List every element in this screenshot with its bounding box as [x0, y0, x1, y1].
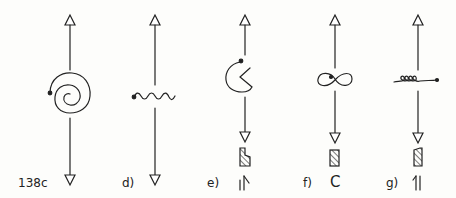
panel-g-coil: [394, 15, 439, 190]
panel-d-wave: [132, 15, 175, 185]
panel-label-f: f): [303, 176, 312, 190]
panel-label-d: d): [122, 176, 134, 190]
panel-label-e: e): [207, 176, 219, 190]
panel-label-c: 138c: [18, 176, 48, 190]
diagram-svg: [0, 0, 456, 198]
panel-label-g: g): [386, 176, 398, 190]
panel-f-figure-eight: [318, 15, 352, 166]
panel-e-notched-circle: [226, 15, 252, 190]
panel-f-c-glyph: C: [330, 173, 340, 191]
panel-c-spiral: [48, 15, 90, 185]
diagram-canvas: 138c d) e) f) C g): [0, 0, 456, 198]
